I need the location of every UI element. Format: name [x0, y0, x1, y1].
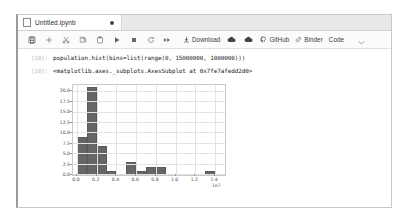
x-axis-tick-mark [135, 174, 136, 176]
y-axis-tick-label: 0.0 [48, 172, 70, 177]
x-axis-tick-mark [194, 174, 195, 176]
paste-cell-button[interactable] [91, 33, 108, 46]
output-repr-text: <matplotlib.axes._subplots.AxesSubplot a… [53, 67, 252, 76]
x-axis-tick-mark [175, 174, 176, 176]
x-axis-tick-label: 0.0 [67, 177, 85, 182]
code-cell-source[interactable]: population.hist(bins=list(range(0, 15000… [53, 54, 245, 63]
input-prompt-label: [10]: [22, 54, 53, 63]
y-axis-tick-label: 5.0 [48, 151, 70, 156]
plot-area [72, 84, 226, 176]
screen-root: Untitled.ipynb [0, 0, 407, 224]
cloud-download-icon [244, 36, 253, 43]
cloud-download-button[interactable] [240, 33, 257, 46]
stop-icon [130, 36, 138, 44]
unsaved-changes-dot-icon[interactable] [110, 21, 114, 25]
scissors-icon [62, 36, 70, 44]
copy-icon [79, 36, 87, 44]
download-icon [183, 36, 190, 43]
x-axis-tick-label: 1.0 [166, 177, 184, 182]
y-axis-tick-label: 7.5 [48, 140, 70, 145]
gridline-vertical [195, 85, 196, 175]
x-axis-tick-label: 0.2 [87, 177, 105, 182]
play-icon [113, 36, 121, 44]
notebook-body: [10]: population.hist(bins=list(range(0,… [18, 49, 391, 207]
gridline-vertical [77, 85, 78, 175]
x-axis-tick-mark [155, 174, 156, 176]
output-cell-text: [10]: <matplotlib.axes._subplots.AxesSub… [18, 67, 391, 76]
cut-cell-button[interactable] [57, 33, 74, 46]
y-axis-tick-label: 10.0 [48, 130, 70, 135]
tab-title: Untitled.ipynb [35, 19, 76, 26]
y-axis-tick-label: 17.5 [48, 98, 70, 103]
y-axis-tick-mark [70, 111, 72, 112]
histogram-figure: 0.02.55.07.510.012.515.017.520.00.00.20.… [48, 78, 234, 196]
gridline-vertical [215, 85, 216, 175]
notebook-toolbar: Download GitHub [18, 31, 391, 49]
y-axis-tick-label: 15.0 [48, 109, 70, 114]
paste-icon [96, 36, 104, 44]
tab-untitled-ipynb[interactable]: Untitled.ipynb [18, 15, 122, 30]
output-figure-row: 0.02.55.07.510.012.515.017.520.00.00.20.… [18, 78, 391, 196]
copy-cell-button[interactable] [74, 33, 91, 46]
restart-run-all-button[interactable] [159, 33, 176, 46]
tab-bar: Untitled.ipynb [18, 15, 391, 31]
x-axis-tick-label: 0.6 [126, 177, 144, 182]
gridline-vertical [156, 85, 157, 175]
github-icon [260, 36, 267, 43]
x-axis-tick-label: 0.4 [106, 177, 124, 182]
x-axis-tick-label: 1.4 [205, 177, 223, 182]
notebook-file-icon [23, 18, 31, 27]
x-axis-tick-mark [76, 174, 77, 176]
fast-forward-icon [163, 36, 172, 44]
chevron-down-icon[interactable] [358, 31, 365, 49]
save-icon [28, 36, 36, 44]
x-axis-tick-mark [214, 174, 215, 176]
cloud-upload-icon [227, 36, 236, 43]
restart-kernel-button[interactable] [142, 33, 159, 46]
download-button[interactable]: Download [180, 33, 223, 46]
gridline-vertical [136, 85, 137, 175]
x-axis-tick-label: 1.2 [185, 177, 203, 182]
download-label: Download [192, 36, 220, 43]
gridline-vertical [97, 85, 98, 175]
y-axis-tick-mark [70, 132, 72, 133]
y-axis-tick-label: 2.5 [48, 161, 70, 166]
notebook-window: Untitled.ipynb [16, 14, 392, 208]
interrupt-kernel-button[interactable] [125, 33, 142, 46]
cloud-upload-button[interactable] [223, 33, 240, 46]
y-axis-tick-mark [70, 174, 72, 175]
y-axis-tick-mark [70, 101, 72, 102]
run-cell-button[interactable] [108, 33, 125, 46]
y-axis-tick-label: 20.0 [48, 88, 70, 93]
x-axis-tick-label: 0.8 [146, 177, 164, 182]
gridline-vertical [176, 85, 177, 175]
code-cell[interactable]: [10]: population.hist(bins=list(range(0,… [18, 54, 391, 63]
binder-button[interactable]: Binder [292, 33, 326, 46]
histogram-bar [97, 146, 107, 175]
cell-type-select[interactable]: Code [326, 33, 368, 46]
x-axis-tick-mark [115, 174, 116, 176]
plus-icon [45, 36, 53, 44]
y-axis-tick-mark [70, 164, 72, 165]
link-icon [295, 36, 302, 43]
x-axis-exponent-label: 1e7 [212, 183, 221, 188]
restart-icon [147, 36, 155, 44]
binder-label: Binder [304, 36, 323, 43]
x-axis-tick-mark [96, 174, 97, 176]
output-prompt-label: [10]: [22, 67, 53, 76]
y-axis-tick-mark [70, 90, 72, 91]
y-axis-tick-label: 12.5 [48, 119, 70, 124]
insert-cell-button[interactable] [40, 33, 57, 46]
y-axis-tick-mark [70, 122, 72, 123]
gridline-vertical [116, 85, 117, 175]
y-axis-tick-mark [70, 153, 72, 154]
save-button[interactable] [23, 33, 40, 46]
github-label: GitHub [269, 36, 289, 43]
github-button[interactable]: GitHub [257, 33, 292, 46]
cell-type-value: Code [329, 36, 344, 43]
y-axis-tick-mark [70, 143, 72, 144]
